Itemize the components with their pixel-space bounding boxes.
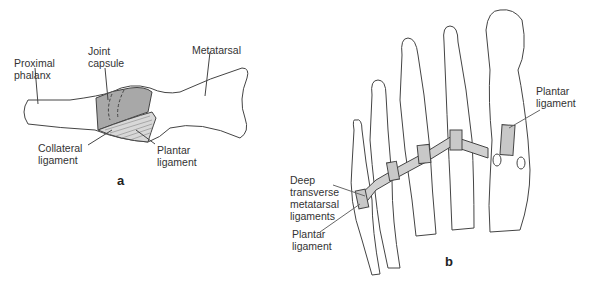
panel-letter-a: a bbox=[117, 173, 124, 188]
panel-a-drawing bbox=[24, 52, 248, 145]
label-collateral-ligament: Collateral ligament bbox=[38, 142, 82, 166]
panel-b-drawing bbox=[320, 10, 540, 275]
label-deep-transverse-metatarsal-ligaments: Deep transverse metatarsal ligaments bbox=[290, 174, 339, 222]
panel-letter-b: b bbox=[445, 254, 453, 269]
label-plantar-ligament-a: Plantar ligament bbox=[157, 144, 197, 168]
label-proximal-phalanx: Proximal phalanx bbox=[14, 57, 55, 81]
label-plantar-ligament-top: Plantar ligament bbox=[536, 85, 576, 109]
label-plantar-ligament-bottom: Plantar ligament bbox=[292, 228, 332, 252]
label-metatarsal: Metatarsal bbox=[192, 44, 241, 56]
label-joint-capsule: Joint capsule bbox=[88, 45, 124, 69]
